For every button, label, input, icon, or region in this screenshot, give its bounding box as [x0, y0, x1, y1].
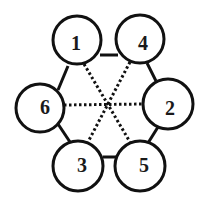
- edge-6-1: [58, 66, 68, 90]
- dotted-edges: [64, 62, 144, 142]
- edge-2-5: [148, 127, 158, 143]
- hexagon-diagram: 1 4 6 2 3 5: [0, 0, 202, 203]
- edge-3-6: [58, 124, 70, 142]
- node-2-label: 2: [165, 97, 175, 119]
- diagonal-6-2: [64, 104, 144, 105]
- edge-4-2: [147, 63, 156, 81]
- node-1-label: 1: [71, 32, 81, 54]
- node-3-label: 3: [77, 154, 87, 176]
- node-6-label: 6: [40, 96, 50, 118]
- node-5-label: 5: [139, 154, 149, 176]
- node-4-label: 4: [138, 32, 148, 54]
